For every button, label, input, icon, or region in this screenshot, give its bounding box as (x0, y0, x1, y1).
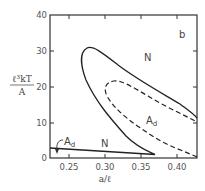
region-label-ad-middle: Ad (146, 115, 157, 128)
plot-frame (50, 15, 197, 158)
y-tick-10: 10 (36, 118, 47, 128)
region-label-ad-lower: Ad (64, 136, 75, 149)
phase-diagram-chart: 40 30 20 10 0 0.25 0.30 0.35 0.40 a/ℓ ℓ³… (0, 0, 205, 191)
y-ticks (50, 51, 197, 123)
x-tick-030: 0.30 (96, 162, 115, 172)
x-axis-label: a/ℓ (99, 174, 112, 184)
y-tick-20: 20 (36, 82, 47, 92)
solid-boundary-curve (50, 47, 197, 154)
x-tick-labels: 0.25 0.30 0.35 0.40 (60, 162, 187, 172)
y-axis-label-denominator: A (18, 87, 26, 97)
y-tick-labels: 40 30 20 10 0 (36, 10, 47, 163)
arrow-head-icon (55, 149, 59, 154)
region-label-n-lower: N (101, 138, 108, 149)
x-tick-040: 0.40 (168, 162, 187, 172)
y-axis-label-numerator: ℓ³kT (12, 74, 31, 84)
y-tick-0: 0 (42, 153, 47, 163)
panel-label: b (179, 29, 185, 40)
y-tick-40: 40 (36, 10, 47, 20)
y-tick-30: 30 (36, 46, 47, 56)
region-label-n-upper: N (144, 52, 151, 63)
x-ticks (69, 15, 177, 158)
x-tick-025: 0.25 (60, 162, 79, 172)
x-tick-035: 0.35 (132, 162, 151, 172)
